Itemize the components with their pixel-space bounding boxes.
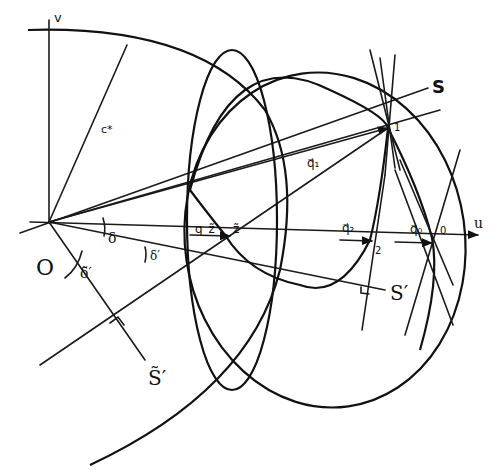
label-S-prime: S′ [390,281,409,305]
label-axis-u: u [474,215,483,231]
angle-arc-delta-prime [145,247,146,262]
label-q2: q⃗₂ [342,221,355,235]
label-S-tilde-prime: S̃′ [148,366,167,390]
label-c-star: c* [101,123,113,136]
label-point-2: 2 [375,245,381,256]
line-through-0b [400,160,453,285]
label-delta-prime: δ′ [150,249,160,263]
line-through-2 [362,175,385,330]
label-axis-v: v [54,10,62,25]
label-q0: q⃗₀ [410,222,423,236]
label-S: S [432,76,445,97]
diagram-canvas: v c* O δ δ′ δ̃′ S S′ S̃′ q⃗₁ q⃗₂ q⃗₀ q_z… [0,0,493,475]
radius-c-star [49,45,127,222]
ray-S-tilde-prime [49,222,145,360]
label-q-tilde: q_z̃ [195,222,215,236]
vector-q0-arrow [395,242,432,243]
label-q1: q⃗₁ [307,156,320,170]
vector-q2-arrow [340,240,372,241]
label-point-1: 1 [394,122,400,133]
ray-S-prime [49,222,385,290]
label-origin: O [36,255,54,280]
label-point-0: 0 [440,225,446,236]
label-delta-tilde-prime: δ̃′ [80,265,92,281]
label-delta: δ [108,230,116,246]
label-z-tilde: z̃ [233,222,239,236]
